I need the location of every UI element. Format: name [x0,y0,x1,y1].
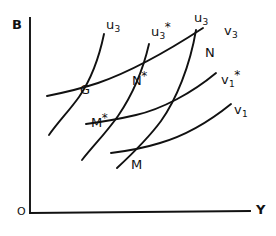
curve-label-v1-star: v1* [221,69,240,89]
curve-label-u3-star-asterisk: * [165,20,171,34]
point-label-N-star: N* [132,70,147,87]
indifference-curve-figure: B Y O u3 u3* u3 v3 v1* v1 G N* M* N M [0,0,276,236]
point-label-N-star-asterisk: * [141,69,147,83]
curve-label-v3-base: v [224,23,232,38]
curve-label-v3-sub: 3 [232,30,238,40]
curve-label-u3-left: u3 [106,18,120,34]
curve-label-v1-sub: 1 [242,109,248,119]
curve-label-v1-star-asterisk: * [234,68,240,82]
curve-label-u3-right-base: u [194,10,202,25]
curve-label-u3-star: u3* [151,21,171,41]
curve-label-v3: v3 [224,24,238,40]
curve-label-u3-star-base: u [151,24,159,39]
y-axis-label: B [12,18,22,31]
x-axis-label: Y [256,203,265,216]
curve-v1 [111,104,231,153]
point-label-M-star: M* [91,112,108,129]
curve-u3-star-middle [82,44,149,160]
point-label-G: G [80,83,90,96]
point-label-M-star-base: M [91,115,102,130]
curve-label-v1-base: v [234,102,242,117]
curve-label-u3-right-sub: 3 [203,17,209,27]
curve-label-u3-right: u3 [194,11,208,27]
curve-label-v1: v1 [234,103,248,119]
curve-label-v1-star-base: v [221,72,229,87]
x-axis [30,211,250,213]
point-label-M: M [131,158,142,171]
curve-label-u3-left-base: u [106,17,114,32]
point-label-N: N [205,46,215,59]
curve-label-u3-left-sub: 3 [115,24,121,34]
origin-label: O [17,206,26,217]
point-label-M-star-asterisk: * [102,111,108,125]
